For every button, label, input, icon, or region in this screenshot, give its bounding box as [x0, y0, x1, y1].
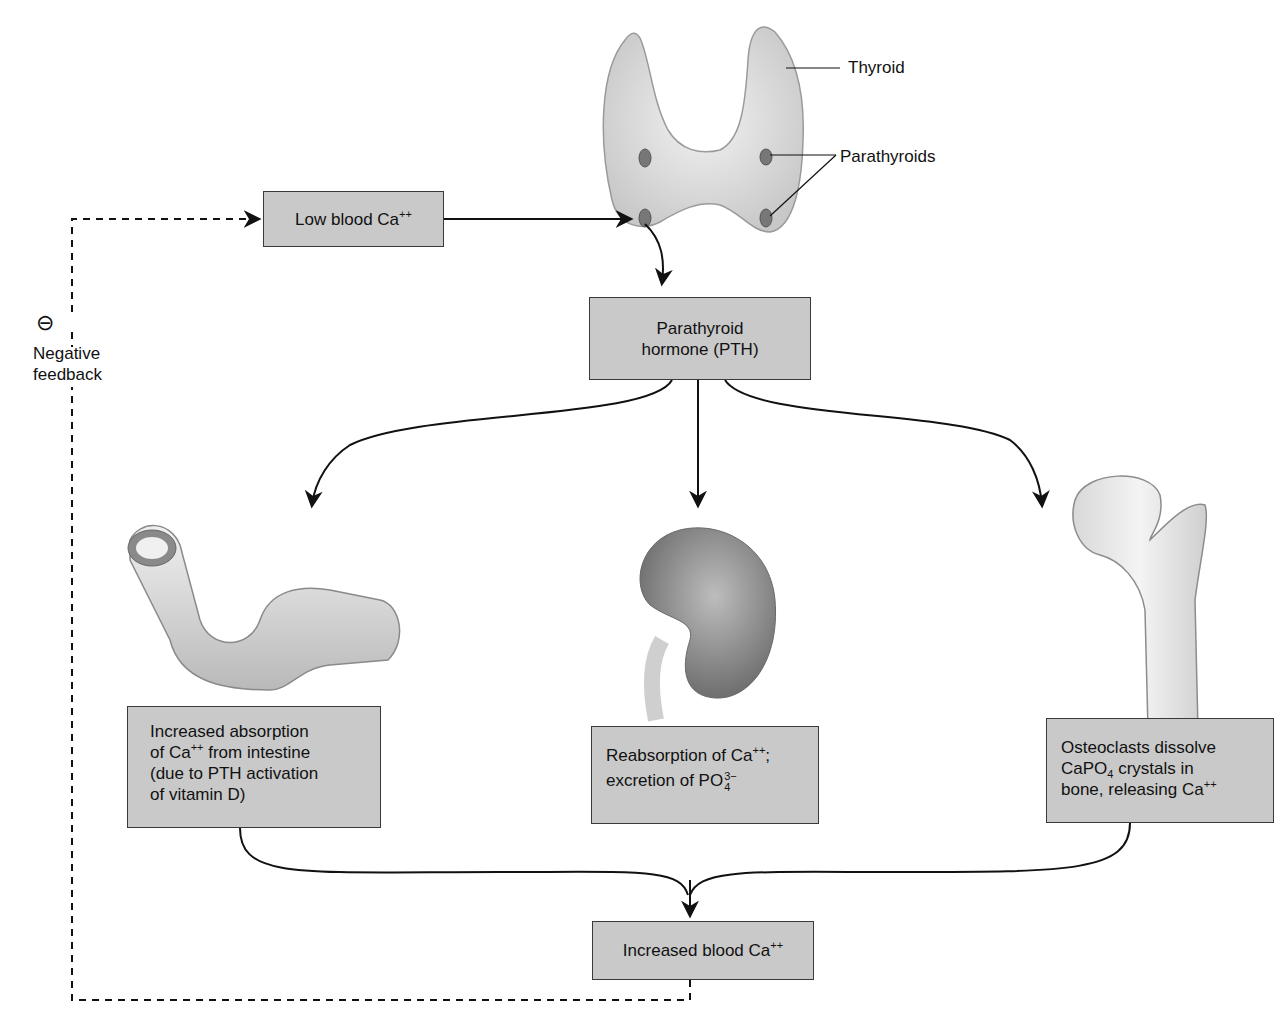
- bone-osteoclasts-box: Osteoclasts dissolve CaPO4 crystals in b…: [1046, 718, 1274, 823]
- femur-bone-illustration: [1073, 476, 1206, 730]
- negative-feedback-label-1: Negative: [33, 343, 100, 364]
- diagram-canvas: [0, 0, 1287, 1024]
- parathyroid-hormone-box: Parathyroid hormone (PTH): [589, 297, 811, 380]
- kidney-reabsorption-box: Reabsorption of Ca++; excretion of PO3−4: [591, 726, 819, 824]
- low-blood-calcium-box: Low blood Ca++: [263, 191, 444, 247]
- arrow-pth-to-bone: [725, 380, 1042, 505]
- arrow-bone-to-merge: [690, 823, 1130, 895]
- increased-blood-calcium-box: Increased blood Ca++: [592, 921, 814, 980]
- negative-feedback-label-2: feedback: [33, 364, 102, 385]
- parathyroids-label: Parathyroids: [840, 146, 935, 167]
- intestine-absorption-box: Increased absorption of Ca++ from intest…: [127, 706, 381, 828]
- arrow-parathyroid-to-pth: [645, 224, 663, 283]
- thyroid-label: Thyroid: [848, 57, 905, 78]
- intestine-illustration: [128, 526, 400, 690]
- thyroid-gland-illustration: [603, 27, 803, 232]
- negative-feedback-loop: [72, 387, 690, 1000]
- negative-sign-icon: ⊖: [36, 312, 54, 333]
- arrow-intestine-to-merge: [240, 828, 688, 895]
- arrow-pth-to-intestine: [312, 380, 672, 505]
- kidney-illustration: [640, 528, 776, 720]
